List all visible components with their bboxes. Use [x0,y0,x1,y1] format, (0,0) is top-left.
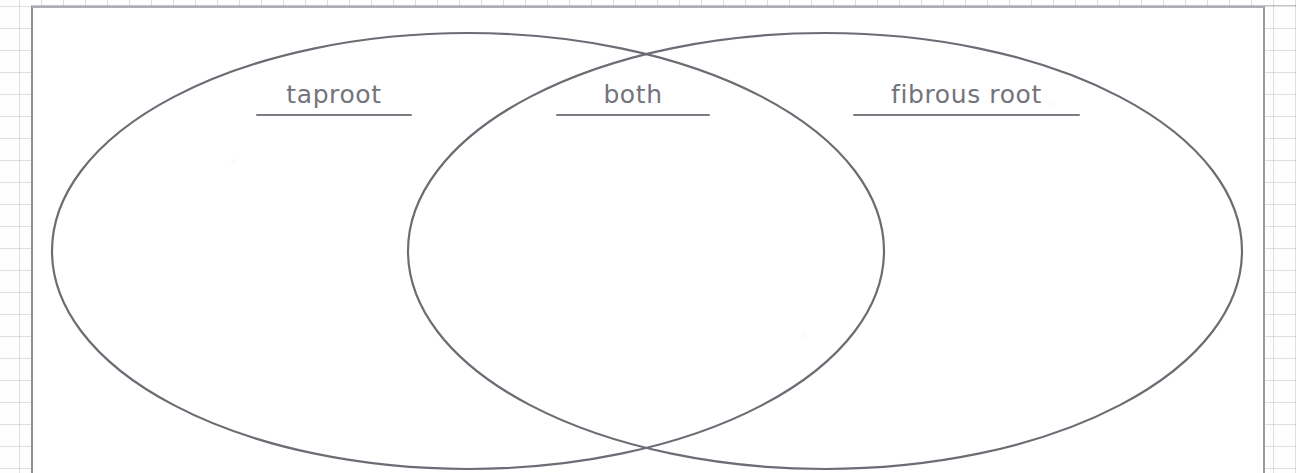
venn-label-fibrous-root-text: fibrous root [853,82,1080,114]
venn-label-taproot-text: taproot [256,82,412,114]
venn-label-both-underline [556,114,710,116]
venn-label-fibrous-root-underline [853,114,1080,116]
venn-label-both[interactable]: both [556,82,710,116]
venn-circle-left-taproot[interactable] [52,33,884,469]
venn-circle-right-fibrous-root[interactable] [408,33,1242,469]
venn-label-taproot[interactable]: taproot [256,82,412,116]
venn-diagram-worksheet: taproot both fibrous root [0,0,1296,473]
venn-diagram-canvas [0,0,1296,473]
venn-label-taproot-underline [256,114,412,116]
venn-label-both-text: both [556,82,710,114]
venn-label-fibrous-root[interactable]: fibrous root [853,82,1080,116]
